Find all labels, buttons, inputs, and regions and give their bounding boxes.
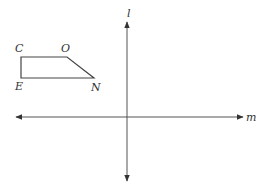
- vertex-label-n: N: [90, 81, 101, 94]
- axis-label-m: m: [246, 111, 256, 124]
- quadrilateral-cone: [21, 57, 94, 78]
- vertex-label-c: C: [15, 42, 24, 55]
- axis-label-l: l: [127, 7, 131, 20]
- shape-outline: [21, 57, 94, 78]
- vertex-label-o: O: [61, 42, 70, 55]
- vertex-label-e: E: [14, 80, 23, 93]
- diagram-canvas: C O N E m l: [0, 0, 268, 187]
